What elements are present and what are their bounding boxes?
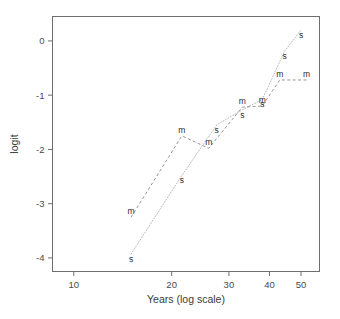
x-tick-label: 40 [264,279,275,290]
x-tick-label: 20 [166,279,177,290]
data-point-m: m [178,125,185,135]
y-tick-label: -1 [36,90,44,101]
y-tick-label: -4 [36,252,44,263]
data-point-s: s [240,110,244,120]
data-point-m: m [127,206,134,216]
y-tick-label: 0 [39,35,44,46]
chart-figure: 1020304050 0-1-2-3-4 sssssss mmmmmmm Yea… [0,0,340,319]
data-point-s: s [129,254,133,264]
y-tick-label: -3 [36,198,44,209]
data-point-s: s [214,125,218,135]
data-point-s: s [282,51,286,61]
x-tick-label: 30 [224,279,235,290]
y-axis-title: logit [8,134,20,153]
x-axis-title: Years (log scale) [147,293,225,305]
data-point-m: m [259,95,266,105]
x-tick-label: 10 [69,279,80,290]
plot-canvas: 1020304050 0-1-2-3-4 sssssss mmmmmmm Yea… [0,0,340,319]
data-point-m: m [276,69,283,79]
x-tick-label: 50 [296,279,307,290]
data-point-m: m [239,96,246,106]
data-point-s: s [180,175,184,185]
data-point-s: s [299,30,303,40]
y-tick-label: -2 [36,144,44,155]
data-point-m: m [205,137,212,147]
data-point-m: m [303,69,310,79]
